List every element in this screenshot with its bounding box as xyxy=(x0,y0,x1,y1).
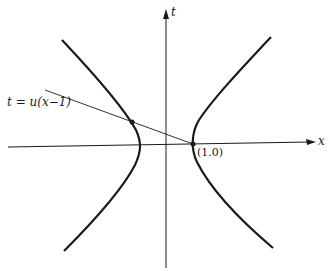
x-axis xyxy=(8,142,310,147)
hyperbola-diagram xyxy=(0,0,330,271)
t-axis-arrow-icon xyxy=(163,9,169,19)
point-label: (1.0) xyxy=(197,146,223,159)
intersection-point xyxy=(130,120,135,125)
point-one-zero xyxy=(191,142,196,147)
x-axis-label: x xyxy=(318,134,325,148)
t-axis-label: t xyxy=(171,5,176,19)
x-axis-arrow-icon xyxy=(306,139,316,145)
line-equation-label: t = u(x−1) xyxy=(7,95,71,109)
